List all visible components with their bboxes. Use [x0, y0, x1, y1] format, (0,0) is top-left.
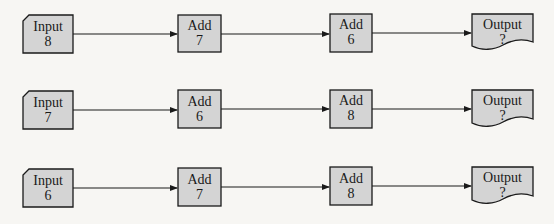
output-document-shape	[472, 14, 533, 49]
add-process-box	[178, 168, 221, 206]
add-process-box	[330, 167, 372, 205]
input-card-shape	[23, 169, 73, 207]
add-process-box	[330, 14, 372, 52]
flow-row-3	[23, 167, 533, 207]
add-process-box	[178, 15, 221, 52]
add-process-box	[330, 90, 372, 128]
add-process-box	[178, 90, 221, 128]
input-card-shape	[23, 15, 73, 53]
flow-row-1	[23, 14, 533, 53]
flow-row-2	[23, 90, 533, 129]
output-document-shape	[472, 167, 533, 203]
output-document-shape	[472, 90, 533, 126]
flowchart-diagram	[0, 0, 554, 224]
input-card-shape	[23, 91, 73, 129]
